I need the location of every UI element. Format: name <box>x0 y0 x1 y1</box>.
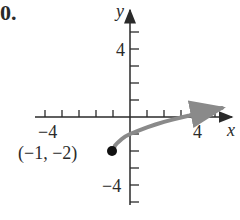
y-tick-label-4: 4 <box>116 41 125 59</box>
endpoint-dot <box>107 146 117 156</box>
x-tick-label-neg4: −4 <box>38 123 57 141</box>
point-label: (−1, −2) <box>18 144 77 162</box>
x-axis-label: x <box>227 121 235 139</box>
y-axis-label: y <box>116 2 124 20</box>
problem-number: 0. <box>0 2 17 24</box>
x-tick-label-4: 4 <box>193 123 202 141</box>
y-tick-label-neg4: −4 <box>102 177 121 195</box>
